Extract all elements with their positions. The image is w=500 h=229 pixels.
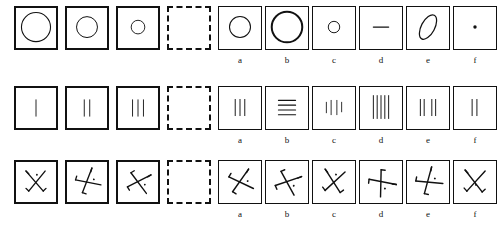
blank-answer-icon xyxy=(169,162,209,202)
option-label-r3-d: d xyxy=(359,209,403,219)
circle-small-icon xyxy=(118,8,158,48)
option-cell-r1-c[interactable] xyxy=(312,6,356,50)
option-cell-r1-f[interactable] xyxy=(453,6,497,50)
crossed-strokes-icon xyxy=(407,161,449,203)
option-cell-r2-c[interactable] xyxy=(312,86,356,130)
circle-medium-icon xyxy=(67,8,107,48)
test-sheet: a b c d xyxy=(0,0,500,229)
option-cell-r3-e[interactable] xyxy=(406,160,450,204)
problem-cell-r2p1[interactable] xyxy=(14,86,58,130)
problem-cell-r3p4-blank[interactable] xyxy=(167,160,211,204)
option-cell-r1-e[interactable] xyxy=(406,6,450,50)
circle-xsmall-icon xyxy=(313,7,355,49)
three-vertical-lines-icon xyxy=(118,88,158,128)
option-cell-r3-a[interactable] xyxy=(218,160,262,204)
option-cell-r3-d[interactable] xyxy=(359,160,403,204)
crossed-strokes-icon xyxy=(16,162,56,202)
option-label-r3-a: a xyxy=(218,209,262,219)
horizontal-line-icon xyxy=(360,7,402,49)
four-grouped-vertical-lines-icon xyxy=(407,87,449,129)
crossed-strokes-icon xyxy=(313,161,355,203)
option-cell-r2-e[interactable] xyxy=(406,86,450,130)
one-vertical-line-icon xyxy=(16,88,56,128)
option-label-r2-f: f xyxy=(453,135,497,145)
crossed-strokes-icon xyxy=(360,161,402,203)
crossed-strokes-icon xyxy=(67,162,107,202)
blank-answer-icon xyxy=(169,8,209,48)
problem-cell-r2p2[interactable] xyxy=(65,86,109,130)
crossed-strokes-icon xyxy=(266,161,308,203)
problem-cell-r2p4-blank[interactable] xyxy=(167,86,211,130)
option-cell-r2-b[interactable] xyxy=(265,86,309,130)
option-label-r1-f: f xyxy=(453,55,497,65)
three-vertical-lines-icon xyxy=(219,87,261,129)
option-label-r3-f: f xyxy=(453,209,497,219)
two-vertical-lines-icon xyxy=(454,87,496,129)
option-label-r1-b: b xyxy=(265,55,309,65)
option-label-r2-b: b xyxy=(265,135,309,145)
four-uneven-vertical-lines-icon xyxy=(313,87,355,129)
blank-answer-icon xyxy=(169,88,209,128)
option-label-r3-c: c xyxy=(312,209,356,219)
problem-cell-r3p2[interactable] xyxy=(65,160,109,204)
five-tall-vertical-lines-icon xyxy=(360,87,402,129)
two-vertical-lines-icon xyxy=(67,88,107,128)
option-cell-r3-b[interactable] xyxy=(265,160,309,204)
circle-xlarge-icon xyxy=(266,7,308,49)
dot-icon xyxy=(454,7,496,49)
option-cell-r3-f[interactable] xyxy=(453,160,497,204)
option-label-r2-a: a xyxy=(218,135,262,145)
matrix-row-2: a b c xyxy=(0,76,500,152)
tilted-ellipse-icon xyxy=(407,7,449,49)
circle-medium-icon xyxy=(219,7,261,49)
option-cell-r2-d[interactable] xyxy=(359,86,403,130)
matrix-row-1: a b c d xyxy=(0,0,500,76)
problem-cell-r1p3[interactable] xyxy=(116,6,160,50)
option-label-r3-b: b xyxy=(265,209,309,219)
option-label-r1-a: a xyxy=(218,55,262,65)
crossed-strokes-icon xyxy=(118,162,158,202)
crossed-strokes-icon xyxy=(454,161,496,203)
option-cell-r1-a[interactable] xyxy=(218,6,262,50)
problem-cell-r1p4-blank[interactable] xyxy=(167,6,211,50)
option-cell-r2-a[interactable] xyxy=(218,86,262,130)
option-label-r2-e: e xyxy=(406,135,450,145)
option-label-r3-e: e xyxy=(406,209,450,219)
problem-cell-r1p1[interactable] xyxy=(14,6,58,50)
problem-cell-r3p3[interactable] xyxy=(116,160,160,204)
circle-large-icon xyxy=(16,8,56,48)
option-cell-r1-d[interactable] xyxy=(359,6,403,50)
problem-cell-r1p2[interactable] xyxy=(65,6,109,50)
problem-cell-r2p3[interactable] xyxy=(116,86,160,130)
option-label-r1-c: c xyxy=(312,55,356,65)
option-label-r2-c: c xyxy=(312,135,356,145)
option-label-r2-d: d xyxy=(359,135,403,145)
option-cell-r3-c[interactable] xyxy=(312,160,356,204)
crossed-strokes-icon xyxy=(219,161,261,203)
matrix-row-3: a b xyxy=(0,152,500,229)
four-horizontal-lines-icon xyxy=(266,87,308,129)
option-label-r1-e: e xyxy=(406,55,450,65)
problem-cell-r3p1[interactable] xyxy=(14,160,58,204)
option-cell-r2-f[interactable] xyxy=(453,86,497,130)
option-cell-r1-b[interactable] xyxy=(265,6,309,50)
option-label-r1-d: d xyxy=(359,55,403,65)
